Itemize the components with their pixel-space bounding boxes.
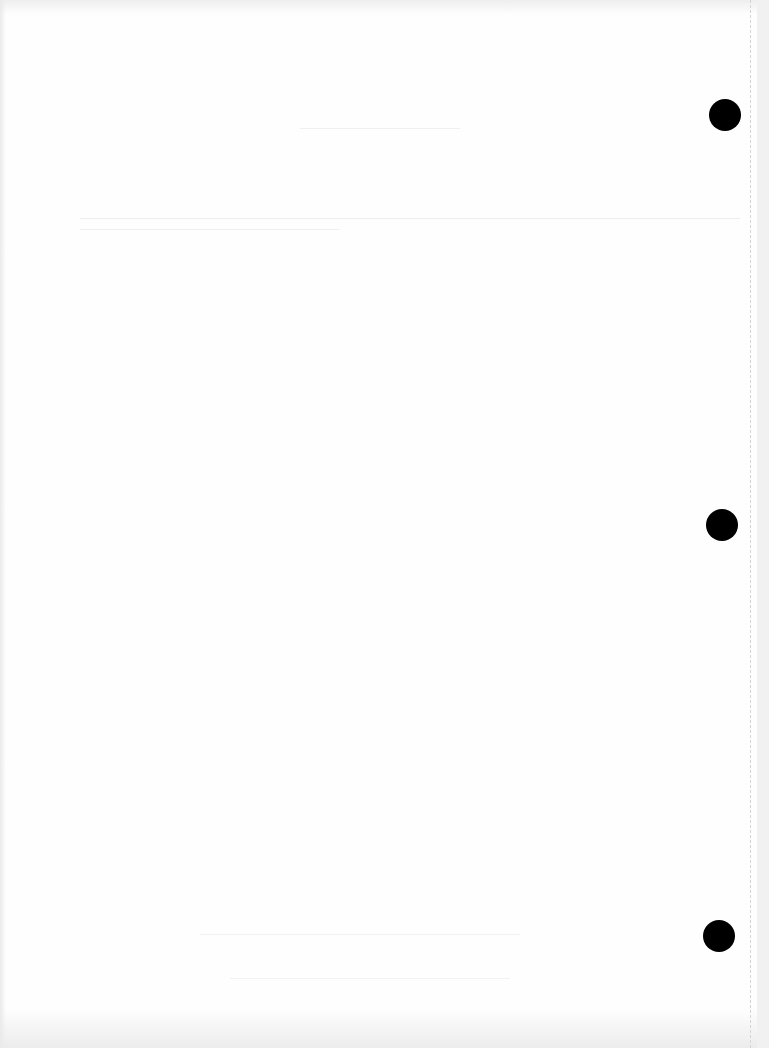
punch-hole-bottom: [703, 920, 735, 952]
scan-shadow-left: [0, 0, 6, 1048]
scan-shadow-right: [757, 0, 769, 1048]
scan-shadow-top: [0, 0, 769, 14]
ghost-smudge: [200, 934, 520, 935]
scan-shadow-bottom: [0, 1008, 769, 1048]
ghost-smudge: [230, 978, 510, 979]
scanned-page: [0, 0, 769, 1048]
ghost-rule: [80, 218, 740, 219]
punch-hole-middle: [706, 509, 738, 541]
ghost-smudge: [300, 128, 460, 129]
dashed-margin-line: [750, 0, 751, 1048]
punch-hole-top: [709, 99, 741, 131]
ghost-rule: [80, 229, 340, 230]
